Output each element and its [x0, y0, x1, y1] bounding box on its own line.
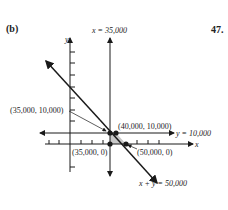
point-label-35000-0: (35,000, 0)	[72, 148, 108, 157]
point-40000-10000	[113, 130, 118, 135]
vertical-line-label: x = 35,000	[91, 26, 127, 35]
point-50000-0	[123, 141, 128, 146]
feasible-region-diagram: (b) 47. x = 35,000 y x y = 10,000 x + y …	[0, 0, 228, 210]
problem-number: 47.	[211, 24, 224, 35]
diagonal-line-label: x + y = 50,000	[138, 179, 187, 188]
x-axis-label: x	[194, 140, 199, 149]
point-label-50000-0: (50,000, 0)	[137, 148, 173, 157]
point-label-35000-10000: (35,000, 10,000)	[10, 106, 64, 115]
point-35000-10000	[107, 130, 112, 135]
part-label: (b)	[6, 23, 18, 35]
y-axis-label: y	[64, 35, 69, 44]
horizontal-line-label: y = 10,000	[175, 129, 211, 138]
point-35000-0	[107, 141, 112, 146]
point-label-40000-10000: (40,000, 10,000)	[118, 122, 172, 131]
leader-arrow-50000-0	[128, 145, 137, 149]
x-axis-ticks	[49, 140, 159, 144]
